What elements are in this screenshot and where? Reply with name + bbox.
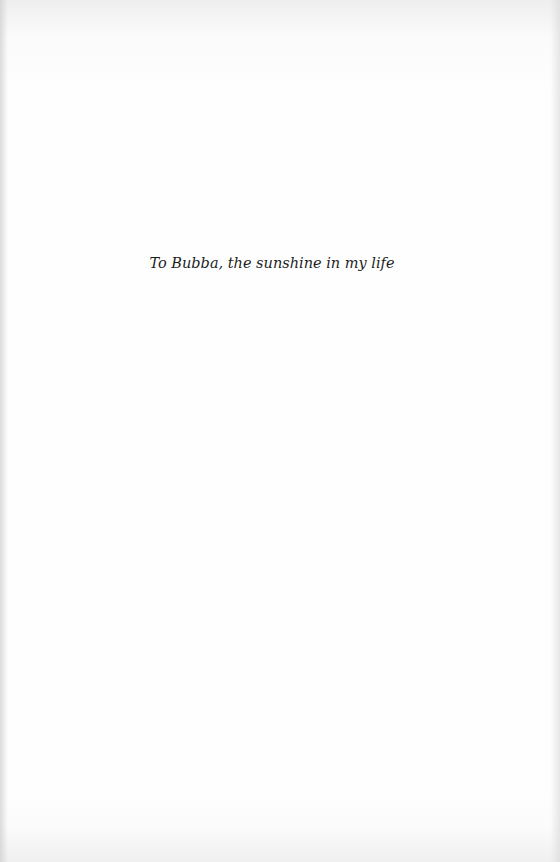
scan-edge-right <box>550 0 560 862</box>
dedication-text: To Bubba, the sunshine in my life <box>149 255 394 271</box>
dedication-block: To Bubba, the sunshine in my life <box>0 254 560 272</box>
scan-edge-left <box>0 0 8 862</box>
scan-edge-bottom <box>0 792 560 862</box>
scan-edge-top <box>0 0 560 90</box>
book-page: To Bubba, the sunshine in my life <box>0 0 560 862</box>
